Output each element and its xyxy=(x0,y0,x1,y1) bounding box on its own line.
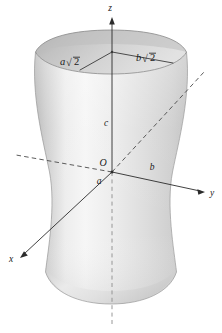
radius-a-radicand: 2 xyxy=(74,56,79,67)
figure-canvas: z y x O c a b a √ 2 b √ xyxy=(0,0,222,333)
origin-label: O xyxy=(99,157,106,168)
radius-a-sqrt2-label: a √ 2 xyxy=(60,56,80,68)
radius-a-coefficient: a xyxy=(60,56,65,67)
hyperboloid-diagram: z y x O c a b a √ 2 b √ xyxy=(0,0,222,333)
axis-label-y: y xyxy=(209,188,215,198)
semi-axis-b-label: b xyxy=(150,162,155,172)
semi-axis-a-label: a xyxy=(97,176,102,186)
radius-b-sqrt2-label: b √ 2 xyxy=(136,52,156,64)
hyperboloid-surface xyxy=(35,30,188,304)
axis-z-arrowhead xyxy=(109,17,115,25)
axis-label-x: x xyxy=(8,254,14,264)
surface-vertical-shade xyxy=(35,52,188,304)
radius-b-radicand: 2 xyxy=(150,52,155,63)
radius-b-coefficient: b xyxy=(136,52,141,63)
axis-x-arrowhead xyxy=(20,251,28,258)
axis-y-arrowhead xyxy=(197,189,205,195)
radius-b-radical-sign: √ xyxy=(142,53,148,64)
axis-label-z: z xyxy=(107,3,112,13)
origin-point xyxy=(111,171,114,174)
radius-a-radical-sign: √ xyxy=(66,57,72,68)
